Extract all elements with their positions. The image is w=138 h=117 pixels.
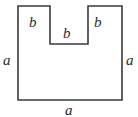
dimension-label-a-left: a [3, 53, 11, 68]
shape-outline-svg [0, 0, 138, 117]
dimension-label-b-middle: b [63, 26, 71, 41]
dimension-label-a-right: a [126, 53, 134, 68]
geometry-figure: a a a b b b [0, 0, 138, 117]
dimension-label-b-left: b [29, 15, 37, 30]
dimension-label-a-bottom: a [65, 103, 73, 117]
dimension-label-b-right: b [94, 15, 102, 30]
